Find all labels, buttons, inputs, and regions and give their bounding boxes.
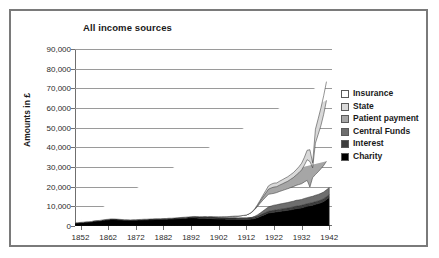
x-axis-tick-label: 1882: [155, 233, 173, 242]
y-axis-tick-mark: [71, 226, 75, 227]
legend-item-label: Interest: [353, 139, 384, 149]
x-axis-tick-label: 1902: [210, 233, 228, 242]
y-axis-tick-mark: [71, 49, 75, 50]
y-axis-tick-mark: [71, 167, 75, 168]
y-axis-tick-label: 80,000: [47, 64, 71, 73]
x-axis-tick-mark: [246, 226, 247, 230]
legend-item-interest[interactable]: Interest: [341, 139, 439, 149]
x-axis-tick-label: 1862: [99, 233, 117, 242]
y-axis-tick-mark: [71, 108, 75, 109]
y-axis-tick-mark: [71, 88, 75, 89]
y-axis-title: Amounts in £: [22, 77, 32, 163]
legend-swatch-icon: [341, 103, 349, 111]
chart-frame: All income sources Amounts in £ 010,0002…: [9, 9, 428, 247]
x-axis-tick-label: 1892: [182, 233, 200, 242]
legend-swatch-icon: [341, 140, 349, 148]
x-axis-tick-mark: [108, 226, 109, 230]
y-axis-tick-label: 30,000: [47, 163, 71, 172]
y-axis-tick-mark: [71, 128, 75, 129]
legend-item-insurance[interactable]: Insurance: [341, 89, 439, 99]
x-axis-tick-label: 1922: [265, 233, 283, 242]
page-title: All income sources: [83, 22, 172, 33]
legend-item-state[interactable]: State: [341, 102, 439, 112]
y-axis-tick-label: 70,000: [47, 84, 71, 93]
x-axis-tick-mark: [136, 226, 137, 230]
stacked-area-series: [75, 49, 332, 226]
y-axis-tick-label: 40,000: [47, 143, 71, 152]
area-series-insurance: [75, 82, 326, 223]
x-axis-tick-mark: [302, 226, 303, 230]
y-axis-tick-mark: [71, 187, 75, 188]
legend-item-label: Central Funds: [353, 127, 410, 137]
legend-item-central-funds[interactable]: Central Funds: [341, 127, 439, 137]
legend-item-patient-payment[interactable]: Patient payment: [341, 114, 439, 124]
x-axis-tick-label: 1912: [237, 233, 255, 242]
legend-item-label: Insurance: [353, 89, 393, 99]
x-axis-tick-mark: [163, 226, 164, 230]
x-axis-tick-label: 1942: [320, 233, 338, 242]
x-axis-tick-mark: [274, 226, 275, 230]
legend-swatch-icon: [341, 153, 349, 161]
y-axis-tick-label: 20,000: [47, 182, 71, 191]
x-axis-tick-label: 1852: [72, 233, 90, 242]
y-axis-tick-label: 90,000: [47, 45, 71, 54]
x-axis-tick-mark: [81, 226, 82, 230]
legend-swatch-icon: [341, 128, 349, 136]
y-axis-tick-mark: [71, 147, 75, 148]
legend-swatch-icon: [341, 90, 349, 98]
legend-item-charity[interactable]: Charity: [341, 152, 439, 162]
chart-legend: InsuranceStatePatient paymentCentral Fun…: [341, 89, 439, 164]
y-axis-tick-label: 60,000: [47, 104, 71, 113]
x-axis-tick-mark: [219, 226, 220, 230]
y-axis-tick-mark: [71, 206, 75, 207]
y-axis-tick-label: 50,000: [47, 123, 71, 132]
x-axis-tick-mark: [191, 226, 192, 230]
y-axis-tick-label: 10,000: [47, 202, 71, 211]
plot-area: 010,00020,00030,00040,00050,00060,00070,…: [75, 49, 332, 226]
x-axis-tick-label: 1872: [127, 233, 145, 242]
legend-item-label: State: [353, 102, 374, 112]
x-axis-tick-label: 1932: [293, 233, 311, 242]
y-axis-tick-mark: [71, 69, 75, 70]
legend-item-label: Charity: [353, 152, 382, 162]
legend-item-label: Patient payment: [353, 114, 419, 124]
x-axis-tick-mark: [329, 226, 330, 230]
legend-swatch-icon: [341, 115, 349, 123]
